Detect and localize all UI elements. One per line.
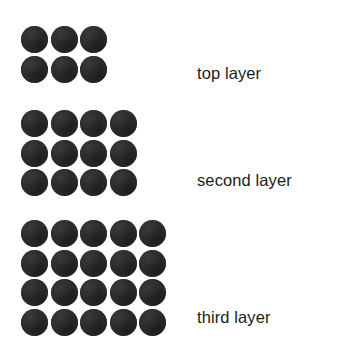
sphere (110, 140, 137, 167)
sphere (80, 250, 107, 277)
sphere (110, 279, 137, 306)
sphere (80, 309, 107, 336)
layer-label-second: second layer (197, 171, 292, 190)
sphere (80, 220, 107, 247)
sphere-row (21, 279, 166, 306)
sphere (80, 56, 107, 83)
sphere (51, 250, 78, 277)
sphere (21, 140, 48, 167)
sphere (21, 56, 48, 83)
sphere (110, 309, 137, 336)
sphere (51, 220, 78, 247)
sphere (110, 250, 137, 277)
sphere-grid-top-layer (21, 26, 107, 83)
sphere (80, 110, 107, 137)
sphere (21, 250, 48, 277)
sphere (139, 250, 166, 277)
sphere (21, 220, 48, 247)
sphere-row (21, 309, 166, 336)
sphere (139, 309, 166, 336)
sphere-row (21, 220, 166, 247)
sphere (51, 309, 78, 336)
sphere-grid-second-layer (21, 110, 137, 196)
sphere (21, 169, 48, 196)
sphere (21, 110, 48, 137)
sphere (51, 279, 78, 306)
sphere (51, 169, 78, 196)
layer-label-top: top layer (197, 64, 261, 83)
sphere (21, 279, 48, 306)
sphere-row (21, 110, 137, 137)
sphere (80, 140, 107, 167)
sphere-row (21, 56, 107, 83)
sphere (51, 110, 78, 137)
sphere (139, 279, 166, 306)
sphere (21, 309, 48, 336)
sphere-row (21, 26, 107, 53)
sphere-grid-third-layer (21, 220, 166, 336)
sphere (80, 26, 107, 53)
sphere-row (21, 169, 137, 196)
sphere (110, 220, 137, 247)
sphere (21, 26, 48, 53)
layer-diagram-figure: top layer second layer third layer (0, 0, 342, 363)
sphere-row (21, 140, 137, 167)
sphere (80, 169, 107, 196)
sphere (51, 56, 78, 83)
sphere (51, 26, 78, 53)
layer-label-third: third layer (197, 308, 271, 327)
sphere (139, 220, 166, 247)
sphere (51, 140, 78, 167)
sphere-row (21, 250, 166, 277)
sphere (80, 279, 107, 306)
sphere (110, 110, 137, 137)
sphere (110, 169, 137, 196)
